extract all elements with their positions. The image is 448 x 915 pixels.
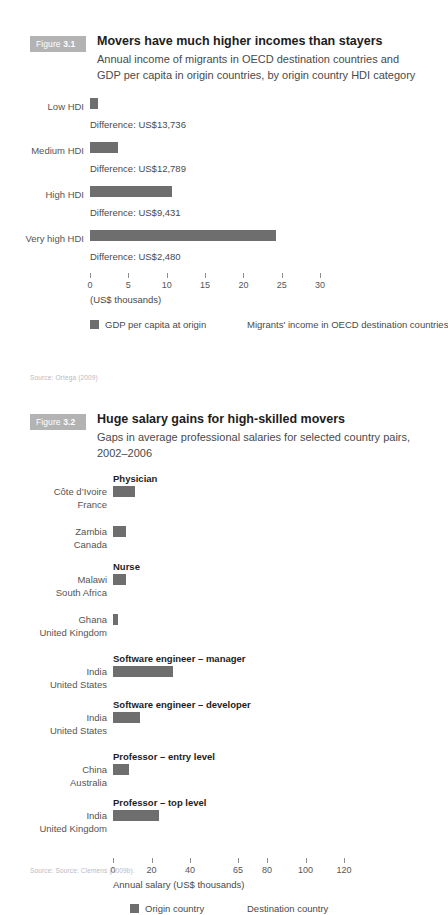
chart2-axis-tick-label: 100: [298, 865, 313, 875]
chart2-destination-label: United Kingdom: [0, 823, 107, 835]
figure-3-1-tag-number: 3.1: [63, 39, 75, 49]
chart1-axis-tick-label: 15: [200, 280, 210, 290]
chart1-axis-tick-label: 25: [277, 280, 287, 290]
chart1-legend-swatch: [232, 320, 241, 329]
figure-3-2-chart: PhysicianCôte d’IvoireFranceZambiaCanada…: [0, 473, 429, 803]
chart2-axis-tick: [238, 858, 239, 863]
figure-3-2-tag-number: 3.2: [63, 417, 75, 427]
chart2-origin-label: India: [0, 810, 107, 822]
figure-3-2-subtitle: Gaps in average professional salaries fo…: [97, 430, 417, 461]
figure-3-1-titles: Movers have much higher incomes than sta…: [97, 34, 417, 83]
chart2-axis-tick: [152, 858, 153, 863]
chart2-origin-label: Malawi: [0, 574, 107, 586]
chart2-legend-label: Destination country: [247, 903, 328, 914]
chart2-axis-tick: [267, 858, 268, 863]
chart2-group-title: Software engineer – manager: [113, 653, 246, 665]
chart2-origin-label: Ghana: [0, 614, 107, 626]
figure-3-1-chart: Low HDIDifference: US$13,736Medium HDIDi…: [0, 97, 429, 297]
chart2-axis-tick: [344, 858, 345, 863]
chart1-row: High HDI: [0, 185, 429, 207]
chart2-bar: [113, 526, 126, 537]
chart1-bar: [90, 230, 276, 241]
chart2-axis-tick: [113, 858, 114, 863]
chart2-destination-label: United States: [0, 725, 107, 737]
figure-3-1-header: Figure 3.1 Movers have much higher incom…: [0, 34, 429, 83]
chart1-legend-label: Migrants' income in OECD destination cou…: [247, 319, 448, 330]
chart1-axis-tick: [282, 273, 283, 278]
chart2-legend-label: Origin country: [145, 903, 204, 914]
chart1-category-label: Low HDI: [0, 101, 84, 113]
chart2-legend-swatch: [232, 904, 241, 913]
figure-3-2-titles: Huge salary gains for high-skilled mover…: [97, 412, 417, 461]
chart2-legend-item: Origin country: [130, 903, 204, 914]
chart2-group-title: Professor – entry level: [113, 751, 215, 763]
chart1-category-label: Medium HDI: [0, 145, 84, 157]
chart1-category-label: Very high HDI: [0, 233, 84, 245]
figure-3-1-source: Source: Ortega (2009): [30, 374, 98, 381]
chart1-bar: [90, 186, 172, 197]
chart2-destination-label: United Kingdom: [0, 627, 107, 639]
chart1-axis-tick: [205, 273, 206, 278]
chart1-difference-label: Difference: US$13,736: [90, 119, 186, 131]
chart1-axis-tick: [320, 273, 321, 278]
chart2-origin-label: India: [0, 666, 107, 678]
chart1-axis-unit-label: (US$ thousands): [90, 294, 161, 305]
chart1-row: Low HDI: [0, 97, 429, 119]
chart1-row: Medium HDI: [0, 141, 429, 163]
chart2-bar: [113, 712, 140, 723]
chart2-group-title: Software engineer – developer: [113, 699, 251, 711]
chart1-axis-tick: [167, 273, 168, 278]
figure-3-2-tag-prefix: Figure: [36, 417, 63, 427]
chart1-difference-label: Difference: US$9,431: [90, 207, 181, 219]
chart2-group-title: Professor – top level: [113, 797, 206, 809]
chart1-bar: [90, 142, 118, 153]
chart2-legend-swatch: [130, 904, 139, 913]
chart2-origin-label: China: [0, 764, 107, 776]
chart1-axis-tick-label: 10: [162, 280, 172, 290]
chart1-bar: [90, 98, 98, 109]
chart2-bar: [113, 810, 159, 821]
chart2-legend-item: Destination country: [232, 903, 328, 914]
chart2-axis-tick-label: 40: [185, 865, 195, 875]
chart1-row: Very high HDI: [0, 229, 429, 251]
chart2-axis-tick: [306, 858, 307, 863]
chart2-axis-label: Annual salary (US$ thousands): [113, 879, 245, 890]
chart1-difference-label: Difference: US$2,480: [90, 251, 181, 263]
figure-3-2: Figure 3.2 Huge salary gains for high-sk…: [0, 412, 429, 803]
chart2-destination-label: France: [0, 499, 107, 511]
chart1-difference-label: Difference: US$12,789: [90, 163, 186, 175]
chart2-group-title: Nurse: [113, 561, 140, 573]
chart1-axis-tick: [90, 273, 91, 278]
chart1-category-label: High HDI: [0, 189, 84, 201]
chart2-destination-label: United States: [0, 679, 107, 691]
chart2-destination-label: South Africa: [0, 587, 107, 599]
chart1-legend-item: GDP per capita at origin: [90, 319, 206, 330]
figure-3-1-tag: Figure 3.1: [30, 36, 86, 52]
chart1-axis-tick-label: 20: [238, 280, 248, 290]
figure-3-1-subtitle: Annual income of migrants in OECD destin…: [97, 52, 417, 83]
figure-3-2-header: Figure 3.2 Huge salary gains for high-sk…: [0, 412, 429, 461]
chart2-axis-tick-label: 20: [146, 865, 156, 875]
chart1-axis-tick: [128, 273, 129, 278]
chart1-legend-swatch: [90, 320, 99, 329]
chart1-legend-item: Migrants' income in OECD destination cou…: [232, 319, 448, 330]
chart2-axis-tick-label: 120: [336, 865, 351, 875]
chart2-destination-label: Australia: [0, 777, 107, 789]
chart1-axis-tick-label: 0: [87, 280, 92, 290]
chart1-legend-label: GDP per capita at origin: [105, 319, 206, 330]
figure-3-2-tag: Figure 3.2: [30, 414, 86, 430]
chart1-axis-tick-label: 30: [315, 280, 325, 290]
chart2-axis-tick-label: 65: [233, 865, 243, 875]
chart2-group-title: Physician: [113, 473, 157, 485]
chart2-axis-tick-label: 80: [262, 865, 272, 875]
figure-3-1-title: Movers have much higher incomes than sta…: [97, 34, 417, 49]
chart2-destination-label: Canada: [0, 539, 107, 551]
chart2-axis-tick: [190, 858, 191, 863]
figure-3-2-title: Huge salary gains for high-skilled mover…: [97, 412, 417, 427]
figure-3-1: Figure 3.1 Movers have much higher incom…: [0, 34, 429, 297]
chart1-axis-tick-label: 5: [126, 280, 131, 290]
chart2-origin-label: India: [0, 712, 107, 724]
figure-3-2-source: Source: Source: Clemens (2009b).: [30, 867, 135, 874]
figure-3-1-tag-prefix: Figure: [36, 39, 63, 49]
